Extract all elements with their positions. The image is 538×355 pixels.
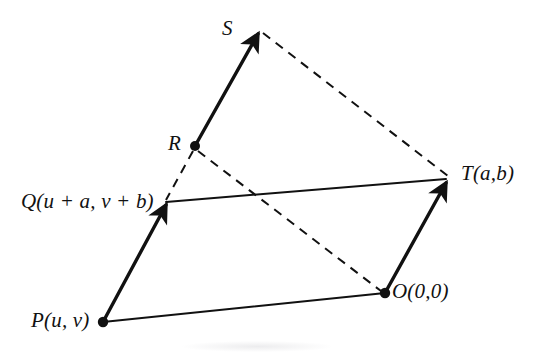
- vertex-dot-O: [380, 288, 390, 298]
- point-label-Q: Q(u + a, v + b): [21, 191, 154, 212]
- vector-R-to-S: [195, 34, 258, 146]
- line-Q-to-T: [166, 179, 446, 202]
- line-P-to-O: [103, 293, 385, 322]
- vector-O-to-T: [385, 183, 446, 293]
- vector-diagram-figure: S R T(a,b) O(0,0) Q(u + a, v + b) P(u, v…: [0, 0, 538, 355]
- point-label-S: S: [222, 18, 233, 39]
- point-label-P: P(u, v): [31, 310, 90, 331]
- dashed-R-to-O: [198, 151, 381, 291]
- point-label-O: O(0,0): [392, 281, 449, 302]
- vector-P-to-Q: [103, 205, 166, 322]
- dashed-R-to-Q: [166, 151, 193, 200]
- vertex-dots: [98, 141, 390, 327]
- dashed-S-to-T: [263, 33, 448, 176]
- vertex-dot-R: [190, 141, 200, 151]
- point-label-T: T(a,b): [461, 163, 514, 184]
- vertex-dot-P: [98, 317, 108, 327]
- point-label-R: R: [168, 133, 181, 154]
- diagram-canvas: [0, 0, 538, 355]
